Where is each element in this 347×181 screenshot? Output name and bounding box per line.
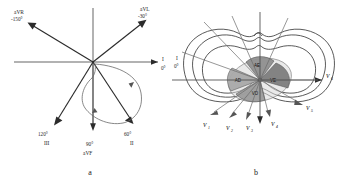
lead-label-v6: V (326, 73, 330, 79)
lead-vector-avl (93, 20, 147, 62)
lead-label-v2: V (226, 125, 230, 131)
label-lead-ii-name: II (130, 140, 134, 146)
label-lead-ii: 60° II (124, 131, 134, 146)
label-b-lead-i: I (176, 55, 178, 61)
lead-label-v5-subscript: 5 (311, 109, 313, 113)
label-b-lead-i-degrees: 0° (174, 63, 179, 69)
axis-horizontal (14, 59, 158, 64)
panel-b-caption: b (254, 168, 258, 177)
label-avr-degrees: -150° (11, 16, 23, 22)
lead-label-v1: V (203, 122, 207, 128)
lead-label-v1-subscript: 1 (208, 126, 210, 130)
lead-label-v4: V (271, 121, 275, 127)
label-lead-i-name: I (162, 56, 164, 62)
label-avl-degrees: -30° (138, 13, 147, 19)
label-lead-avf-name: aVF (83, 150, 92, 156)
axis-vertical-b-arrow (257, 116, 263, 124)
lead-vector-iii (54, 62, 93, 126)
lead-label-v2-subscript: 2 (231, 129, 233, 133)
lead-vector-ii (93, 62, 134, 124)
label-lead-avf-degrees: 90° (86, 141, 93, 147)
chamber-label-ae: AE (254, 63, 260, 68)
label-lead-iii-degrees: 120° (38, 131, 48, 137)
figure-root: aVR -150° aVL -30° I 0° 60° II 90° aVF 1… (0, 0, 347, 181)
label-lead-avf: 90° aVF (83, 141, 93, 156)
lead-label-v3-subscript: 3 (251, 129, 253, 133)
label-lead-i-degrees: 0° (161, 65, 166, 71)
label-avr-name: aVR (14, 9, 24, 15)
panel-a-caption: a (88, 168, 92, 177)
label-avl-name: aVL (140, 6, 150, 12)
lead-vector-avr (28, 22, 94, 62)
label-avl: aVL -30° (138, 6, 150, 19)
label-lead-i: I 0° (161, 56, 166, 71)
lead-label-v5: V (306, 105, 310, 111)
panel-b-thorax-diagram: AE AD VE VD I 0° (170, 0, 347, 181)
label-lead-ii-degrees: 60° (124, 131, 131, 137)
qrs-vector-loop (82, 64, 141, 124)
panel-a-hexaxial-diagram: aVR -150° aVL -30° I 0° 60° II 90° aVF 1… (0, 0, 170, 181)
label-avr: aVR -150° (11, 9, 24, 22)
label-lead-iii-name: III (44, 140, 50, 146)
label-lead-iii: 120° III (38, 131, 50, 146)
lead-label-v6-subscript: 6 (331, 77, 333, 81)
lead-label-v3: V (246, 125, 250, 131)
chamber-label-ad: AD (235, 78, 242, 83)
chamber-label-ve: VE (270, 78, 276, 83)
lead-label-v4-subscript: 4 (276, 125, 278, 129)
